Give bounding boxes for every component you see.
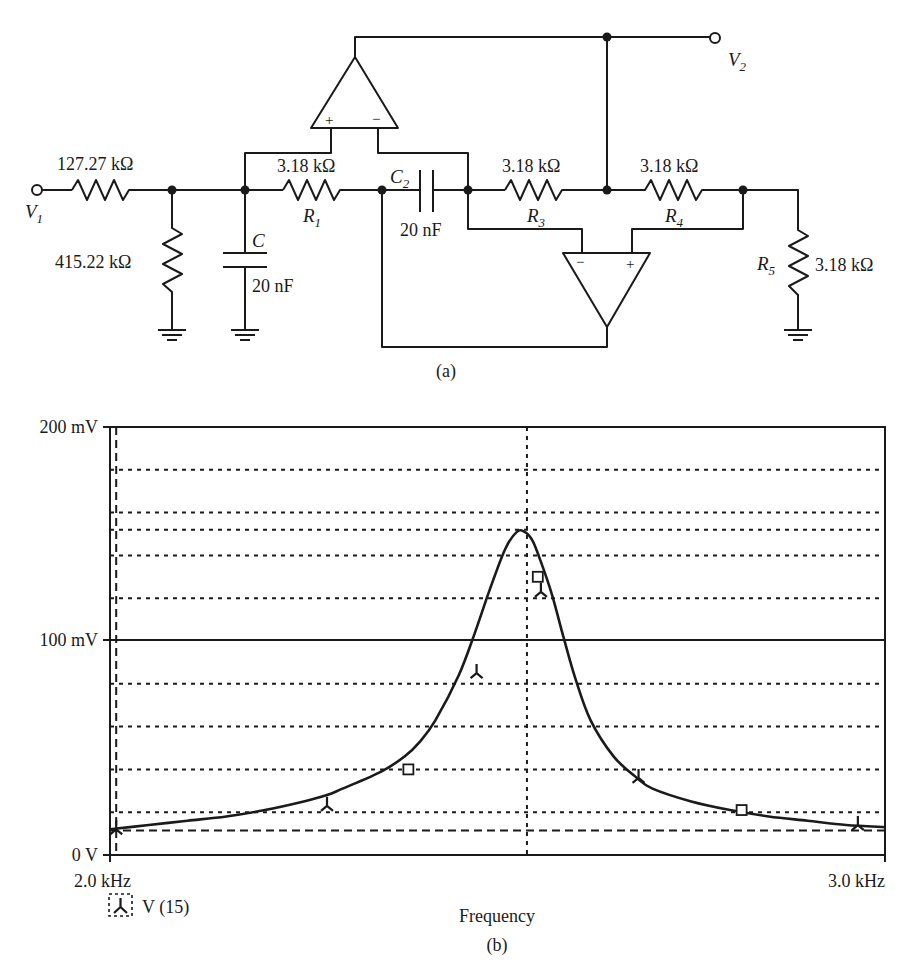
figure: V1 127.27 kΩ 415.22 kΩ C 20 nF 3.18 kΩ R… — [0, 0, 915, 975]
curve-markers — [110, 572, 864, 835]
x-tick-3khz: 3.0 kHz — [828, 871, 885, 891]
wire — [468, 190, 582, 253]
resistor-r1 — [283, 180, 382, 200]
series-v15-line — [110, 530, 885, 829]
tri-marker-icon — [535, 583, 547, 597]
r-in-value: 127.27 kΩ — [57, 154, 133, 174]
square-marker-icon — [737, 805, 747, 815]
chart-caption: (b) — [487, 935, 508, 956]
y-tick-100mv: 100 mV — [40, 630, 99, 650]
opamp-bottom-plus: + — [626, 256, 634, 272]
opamp-top: + − — [311, 57, 398, 128]
resistor-r4 — [607, 180, 743, 200]
tri-marker-icon — [852, 816, 864, 830]
r3-label: R3 — [526, 205, 546, 230]
r5-label: R5 — [756, 253, 776, 278]
frequency-response-chart: 200 mV 100 mV 0 V 2.0 kHz 3.0 kHz V (15)… — [40, 417, 886, 956]
circuit-diagram: V1 127.27 kΩ 415.22 kΩ C 20 nF 3.18 kΩ R… — [25, 33, 873, 383]
input-label: V1 — [25, 201, 43, 226]
tri-marker-icon — [114, 898, 127, 913]
x-tick-2khz: 2.0 kHz — [74, 871, 131, 891]
ground-icon — [158, 318, 186, 340]
resistor-r-in — [72, 180, 135, 200]
y-tick-200mv: 200 mV — [40, 417, 99, 437]
r1-value: 3.18 kΩ — [277, 156, 335, 176]
ground-icon — [231, 318, 259, 340]
opamp-bottom: − + — [563, 253, 650, 327]
plot-frame — [103, 427, 885, 862]
r1-label: R1 — [302, 205, 321, 230]
wire — [632, 190, 743, 253]
resistor-r5 — [743, 190, 808, 318]
opamp-top-plus: + — [325, 112, 333, 128]
junction-node — [603, 33, 612, 42]
legend: V (15) — [109, 894, 189, 918]
capacitor-c — [223, 190, 267, 318]
resistor-r3 — [505, 180, 607, 200]
c-value: 20 nF — [252, 276, 294, 296]
c-label: C — [252, 230, 265, 251]
square-marker-icon — [403, 764, 413, 774]
r4-value: 3.18 kΩ — [640, 156, 698, 176]
r3-value: 3.18 kΩ — [502, 156, 560, 176]
r5-value: 3.18 kΩ — [815, 255, 873, 275]
response-curve — [110, 530, 885, 829]
x-axis-label: Frequency — [459, 906, 535, 926]
tri-marker-icon — [471, 664, 483, 678]
resistor-r-shunt — [163, 190, 182, 318]
tri-marker-icon — [321, 797, 333, 811]
input-terminal-v1 — [32, 185, 42, 195]
square-marker-icon — [533, 572, 543, 582]
ground-icon — [784, 318, 812, 340]
c2-value: 20 nF — [400, 220, 442, 240]
circuit-caption: (a) — [436, 361, 456, 382]
r4-label: R4 — [664, 205, 684, 230]
output-label: V2 — [728, 49, 747, 74]
wire — [355, 37, 710, 57]
c2-label: C2 — [390, 166, 410, 191]
output-terminal-v2 — [710, 33, 720, 43]
opamp-top-minus: − — [372, 111, 380, 127]
opamp-bottom-minus: − — [576, 254, 584, 270]
y-tick-0v: 0 V — [72, 845, 98, 865]
legend-label: V (15) — [142, 897, 189, 918]
r-shunt-value: 415.22 kΩ — [55, 252, 131, 272]
